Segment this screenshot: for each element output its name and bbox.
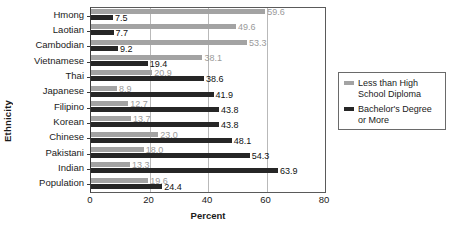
- y-axis-category-label: Chinese: [8, 132, 84, 142]
- bar: [91, 76, 204, 81]
- y-axis-category-labels: HmongLaotianCambodianVietnameseThaiJapan…: [8, 7, 86, 193]
- x-axis-tick-label: 40: [202, 195, 213, 205]
- bar-group: 20.938.6: [91, 69, 325, 84]
- bar: [91, 147, 144, 152]
- legend-label: Less than High School Diploma: [358, 78, 441, 99]
- bar-group: 13.363.9: [91, 161, 325, 176]
- x-axis-tick-label: 0: [87, 195, 92, 205]
- bar-group: 49.67.7: [91, 23, 325, 38]
- y-axis-category-label: Population: [8, 178, 84, 188]
- y-axis-category-label: Korean: [8, 117, 84, 127]
- bar: [91, 107, 219, 112]
- y-axis-category-label: Indian: [8, 163, 84, 173]
- bar: [91, 162, 130, 167]
- bar: [91, 132, 158, 137]
- bar: [91, 92, 214, 97]
- y-axis-category-label: Hmong: [8, 10, 84, 20]
- y-axis-category-label: Japanese: [8, 86, 84, 96]
- bar-value-label: 43.8: [221, 106, 239, 115]
- x-axis-title: Percent: [90, 210, 326, 221]
- bar: [91, 40, 247, 45]
- legend-swatch: [344, 107, 354, 111]
- bar-value-label: 38.1: [204, 54, 222, 63]
- y-axis-category-label: Thai: [8, 71, 84, 81]
- bar: [91, 178, 148, 183]
- bar: [91, 153, 250, 158]
- bar-group: 38.119.4: [91, 54, 325, 69]
- bar-chart: Ethnicity HmongLaotianCambodianVietnames…: [0, 0, 449, 233]
- y-axis-category-label: Filipino: [8, 102, 84, 112]
- bar-value-label: 24.4: [164, 183, 182, 192]
- bar: [91, 116, 131, 121]
- x-axis-tick-labels: 020406080: [90, 195, 326, 209]
- chart-legend: Less than High School DiplomaBachelor's …: [338, 72, 446, 130]
- bar: [91, 30, 114, 35]
- bar: [91, 15, 113, 20]
- bar: [91, 24, 236, 29]
- bar: [91, 101, 128, 106]
- bar: [91, 70, 152, 75]
- x-axis-tick-label: 60: [260, 195, 271, 205]
- legend-swatch: [344, 81, 354, 85]
- bar: [91, 138, 232, 143]
- y-axis-category-label: Cambodian: [8, 40, 84, 50]
- legend-label: Bachelor's Degree or More: [358, 104, 441, 125]
- bar-value-label: 9.2: [120, 45, 133, 54]
- bar-value-label: 38.6: [206, 75, 224, 84]
- bar-value-label: 7.5: [115, 14, 128, 23]
- bar-group: 53.39.2: [91, 39, 325, 54]
- bar-group: 23.048.1: [91, 131, 325, 146]
- bar-group: 8.941.9: [91, 85, 325, 100]
- bar-value-label: 7.7: [116, 29, 129, 38]
- bar: [91, 86, 117, 91]
- bar-group: 19.624.4: [91, 177, 325, 192]
- y-axis-category-label: Pakistani: [8, 148, 84, 158]
- x-axis-tick-label: 20: [143, 195, 154, 205]
- bar: [91, 168, 278, 173]
- bar-group: 13.743.8: [91, 115, 325, 130]
- bar-group: 12.743.8: [91, 100, 325, 115]
- x-axis-tick-label: 80: [319, 195, 330, 205]
- bar-value-label: 63.9: [280, 167, 298, 176]
- bar-group: 18.054.3: [91, 146, 325, 161]
- bar-value-label: 59.6: [267, 8, 285, 17]
- plot-area: 59.67.549.67.753.39.238.119.420.938.68.9…: [90, 7, 326, 193]
- bar: [91, 55, 202, 60]
- y-axis-category-label: Vietnamese: [8, 56, 84, 66]
- legend-item: Less than High School Diploma: [344, 78, 441, 99]
- legend-item: Bachelor's Degree or More: [344, 104, 441, 125]
- bar: [91, 61, 148, 66]
- bar: [91, 184, 162, 189]
- bar-group: 59.67.5: [91, 8, 325, 23]
- y-axis-category-label: Laotian: [8, 25, 84, 35]
- bar-value-label: 54.3: [252, 152, 270, 161]
- bar: [91, 122, 219, 127]
- bar-value-label: 43.8: [221, 121, 239, 130]
- bar-value-label: 53.3: [249, 39, 267, 48]
- bar-value-label: 41.9: [216, 91, 234, 100]
- bar-value-label: 49.6: [238, 23, 256, 32]
- bar-value-label: 48.1: [234, 137, 252, 146]
- bar: [91, 46, 118, 51]
